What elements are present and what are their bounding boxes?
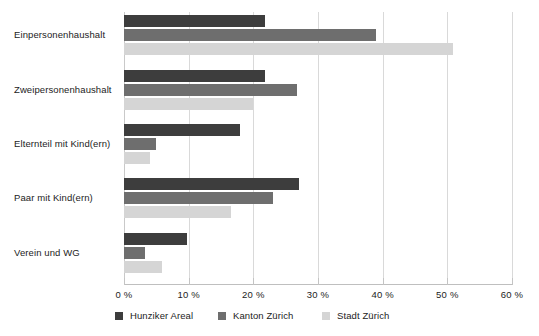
- bar: [124, 192, 273, 204]
- x-tick-mark: [253, 278, 254, 285]
- bar-track: [124, 43, 453, 55]
- bar: [124, 233, 187, 245]
- chart-legend: Hunziker ArealKanton ZürichStadt Zürich: [0, 310, 539, 326]
- bar: [124, 98, 253, 110]
- legend-label: Stadt Zürich: [337, 310, 389, 321]
- legend-item[interactable]: Kanton Zürich: [218, 310, 293, 321]
- bar: [124, 29, 376, 41]
- bar-track: [124, 261, 162, 273]
- bar-track: [124, 70, 265, 82]
- bar-track: [124, 233, 187, 245]
- legend-swatch-icon: [115, 312, 123, 320]
- category-label: Paar mit Kind(ern): [14, 192, 118, 204]
- bar: [124, 138, 156, 150]
- plot-area: [124, 12, 512, 284]
- x-tick-mark: [383, 278, 384, 285]
- legend-swatch-icon: [322, 312, 330, 320]
- bar-track: [124, 247, 145, 259]
- bar: [124, 70, 265, 82]
- x-tick-label: 50 %: [436, 289, 458, 300]
- bar-track: [124, 138, 156, 150]
- legend-label: Hunziker Areal: [130, 310, 193, 321]
- x-tick-mark: [512, 278, 513, 285]
- category-group: [124, 175, 512, 229]
- category-group: [124, 12, 512, 66]
- bar: [124, 15, 265, 27]
- bar-track: [124, 192, 273, 204]
- bar: [124, 43, 453, 55]
- bar: [124, 206, 231, 218]
- gridline-60: [512, 12, 513, 284]
- bar-track: [124, 29, 376, 41]
- bar-track: [124, 15, 265, 27]
- category-label: Zweipersonenhaushalt: [14, 84, 118, 96]
- x-tick-mark: [318, 278, 319, 285]
- bar: [124, 124, 240, 136]
- bar-track: [124, 84, 297, 96]
- category-label: Verein und WG: [14, 247, 118, 259]
- bar: [124, 152, 150, 164]
- bar: [124, 178, 299, 190]
- category-group: [124, 66, 512, 120]
- bar-track: [124, 98, 253, 110]
- bar-track: [124, 152, 150, 164]
- bar: [124, 261, 162, 273]
- bar-chart: Hunziker ArealKanton ZürichStadt Zürich …: [0, 0, 539, 336]
- bar: [124, 84, 297, 96]
- x-tick-label: 60 %: [501, 289, 523, 300]
- x-tick-label: 40 %: [371, 289, 393, 300]
- category-label: Elternteil mit Kind(ern): [14, 138, 118, 150]
- x-tick-label: 20 %: [242, 289, 264, 300]
- x-tick-mark: [124, 278, 125, 285]
- bar-track: [124, 178, 299, 190]
- bar: [124, 247, 145, 259]
- x-tick-label: 30 %: [307, 289, 329, 300]
- legend-item[interactable]: Stadt Zürich: [322, 310, 389, 321]
- legend-label: Kanton Zürich: [233, 310, 293, 321]
- bar-track: [124, 206, 231, 218]
- bar-track: [124, 124, 240, 136]
- category-group: [124, 230, 512, 284]
- category-group: [124, 121, 512, 175]
- x-tick-mark: [189, 278, 190, 285]
- legend-swatch-icon: [218, 312, 226, 320]
- legend-item[interactable]: Hunziker Areal: [115, 310, 193, 321]
- x-tick-mark: [447, 278, 448, 285]
- x-tick-label: 10 %: [177, 289, 199, 300]
- x-tick-label: 0 %: [116, 289, 133, 300]
- category-label: Einpersonenhaushalt: [14, 29, 118, 41]
